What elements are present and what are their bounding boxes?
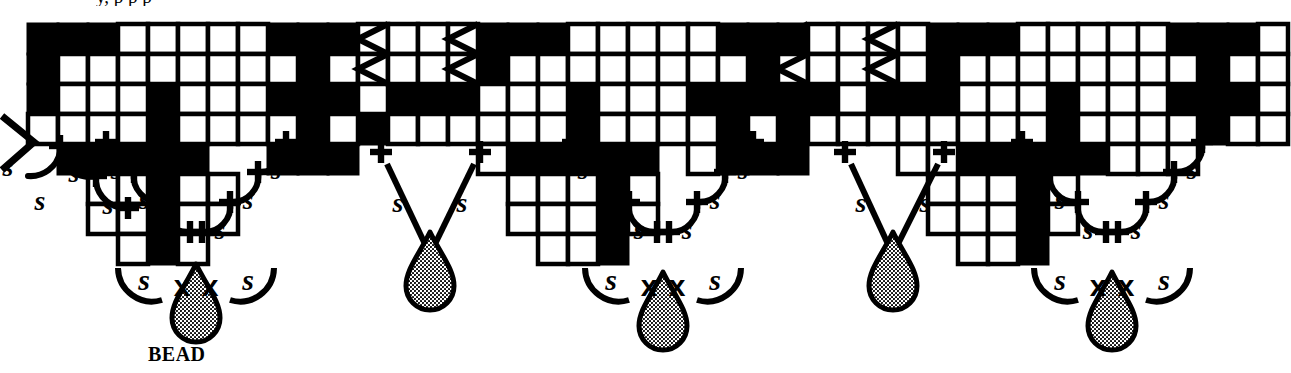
stitch-cell-empty: [88, 54, 118, 84]
drop-chain-line: [436, 164, 474, 242]
stitch-cell-filled: [988, 24, 1018, 54]
stitch-cell-empty: [1078, 54, 1108, 84]
stitch-cell-empty: [568, 54, 598, 84]
stitch-cell-empty: [958, 54, 988, 84]
single-crochet-plus-symbol: [658, 221, 680, 243]
chain-stitch-ess-symbol: s: [166, 215, 178, 245]
chain-stitch-ess-symbol: s: [102, 189, 114, 220]
stitch-cell-empty: [1258, 24, 1288, 54]
chain-stitch-ess-symbol: s: [242, 185, 254, 215]
stitch-cell-filled: [928, 84, 958, 114]
stitch-cell-empty: [1228, 54, 1258, 84]
stitch-cell-filled: [1198, 24, 1228, 54]
stitch-cell-empty: [1078, 24, 1108, 54]
stitch-cell-empty: [208, 114, 238, 144]
stitch-cell-empty: [958, 174, 988, 204]
stitch-cell-filled: [508, 144, 538, 174]
stitch-cell-empty: [1258, 84, 1288, 114]
chain-stitch-ess-symbol: s: [737, 155, 749, 185]
stitch-cell-empty: [1018, 24, 1048, 54]
stitch-cell-empty: [598, 114, 628, 144]
stitch-cell-empty: [418, 114, 448, 144]
single-crochet-plus-symbol: [686, 191, 708, 213]
stitch-cell-empty: [118, 234, 148, 264]
stitch-cell-filled: [418, 84, 448, 114]
chain-stitch-ess-symbol: s: [392, 187, 404, 218]
stitch-cell-empty: [1018, 54, 1048, 84]
stitch-cell-empty: [58, 84, 88, 114]
stitch-cell-empty: [988, 234, 1018, 264]
bead-stitch-ex-symbol: x: [202, 269, 219, 302]
stitch-cell-empty: [808, 114, 838, 144]
chain-stitch-ess-symbol: s: [68, 157, 80, 188]
stitch-cell-filled: [148, 114, 178, 144]
stitch-cell-empty: [538, 54, 568, 84]
stitch-cell-filled: [958, 144, 988, 174]
chain-stitch-ess-symbol: s: [2, 151, 14, 182]
chain-stitch-ess-symbol: s: [137, 263, 150, 296]
stitch-cell-filled: [298, 144, 328, 174]
stitch-cell-empty: [1108, 84, 1138, 114]
stitch-cell-filled: [1078, 144, 1108, 174]
stitch-cell-empty: [538, 174, 568, 204]
stitch-cell-empty: [1168, 54, 1198, 84]
stitch-cell-filled: [448, 84, 478, 114]
stitch-cell-empty: [238, 114, 268, 144]
stitch-cell-empty: [328, 114, 358, 144]
stitch-cell-filled: [598, 234, 628, 264]
stitch-cell-empty: [568, 204, 598, 234]
stitch-cell-empty: [178, 24, 208, 54]
stitch-cell-empty: [628, 24, 658, 54]
stitch-cell-filled: [298, 114, 328, 144]
stitch-cell-filled: [58, 24, 88, 54]
stitch-cell-filled: [1198, 84, 1228, 114]
stitch-cell-empty: [1078, 114, 1108, 144]
chain-arc: [28, 152, 60, 176]
stitch-cell-filled: [718, 24, 748, 54]
stitch-cell-empty: [898, 114, 928, 144]
stitch-cell-empty: [988, 174, 1018, 204]
stitch-cell-empty: [1138, 84, 1168, 114]
stitch-cell-filled: [508, 24, 538, 54]
stitch-cell-filled: [778, 84, 808, 114]
stitch-cell-filled: [1018, 234, 1048, 264]
stitch-cell-empty: [1108, 54, 1138, 84]
stitch-cell-empty: [688, 114, 718, 144]
stitch-cell-empty: [118, 24, 148, 54]
chain-stitch-ess-symbol: s: [1158, 185, 1170, 215]
stitch-cell-filled: [538, 24, 568, 54]
bead-stitch-ex-symbol: x: [174, 269, 191, 302]
pattern-chart-svg: ssssssssssssxxssssssssxxssssssssxxssss: [0, 0, 1291, 373]
stitch-cell-empty: [478, 114, 508, 144]
stitch-cell-filled: [1048, 84, 1078, 114]
stitch-cell-filled: [478, 54, 508, 84]
chain-stitch-ess-symbol: s: [681, 215, 693, 245]
stitch-cell-filled: [298, 24, 328, 54]
chain-stitch-ess-symbol: s: [110, 155, 122, 185]
stitch-cell-empty: [538, 204, 568, 234]
stitch-cell-empty: [898, 144, 928, 174]
bead-stitch-ex-symbol: x: [641, 269, 658, 302]
stitch-cell-empty: [598, 24, 628, 54]
stitch-cell-empty: [928, 204, 958, 234]
stitch-cell-filled: [298, 84, 328, 114]
stitch-cell-filled: [928, 24, 958, 54]
stitch-cell-empty: [118, 84, 148, 114]
stitch-cell-empty: [238, 54, 268, 84]
stitch-cell-empty: [658, 54, 688, 84]
bead-stitch-ex-symbol: x: [669, 269, 686, 302]
stitch-cell-empty: [628, 84, 658, 114]
bead-stitch-ex-symbol: x: [1090, 269, 1107, 302]
stitch-cell-empty: [1258, 114, 1288, 144]
stitch-cell-filled: [1048, 114, 1078, 144]
chain-stitch-ess-symbol: s: [1186, 155, 1198, 185]
chain-stitch-ess-symbol: s: [1157, 263, 1170, 296]
stitch-cell-empty: [508, 204, 538, 234]
chain-stitch-ess-symbol: s: [1130, 215, 1142, 245]
stitch-cell-filled: [958, 24, 988, 54]
stitch-cell-empty: [718, 54, 748, 84]
single-crochet-plus-symbol: [1107, 221, 1129, 243]
stitch-cell-empty: [958, 84, 988, 114]
bead-stitch-ex-symbol: x: [1118, 269, 1135, 302]
stitch-cell-empty: [508, 174, 538, 204]
